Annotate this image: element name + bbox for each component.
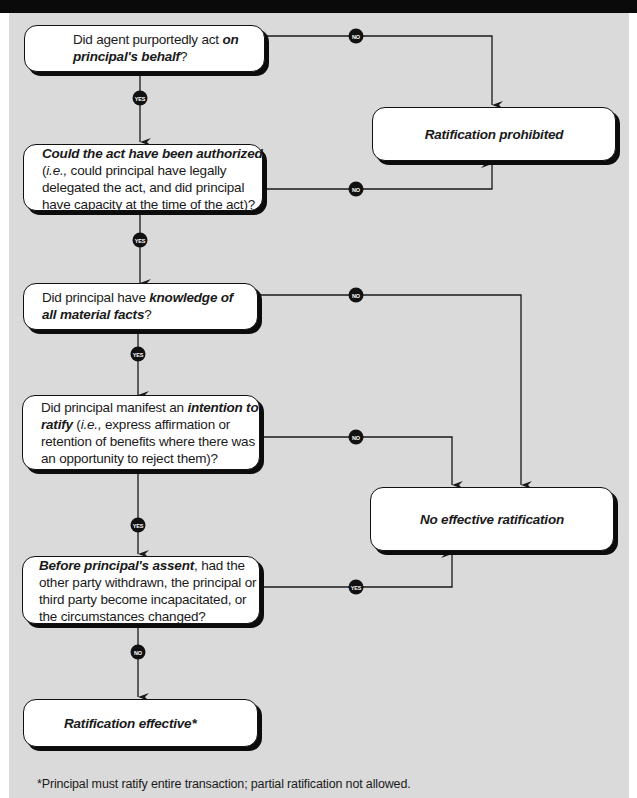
question-emphasis: Before principal's assent bbox=[39, 558, 194, 573]
no-badge: NO bbox=[349, 430, 364, 445]
footnote: *Principal must ratify entire transactio… bbox=[37, 777, 411, 791]
yes-badge: YES bbox=[131, 347, 146, 362]
yes-badge: YES bbox=[131, 518, 146, 533]
no-badge: NO bbox=[349, 29, 364, 44]
yes-badge: YES bbox=[133, 233, 148, 248]
question-text: i.e., bbox=[46, 163, 67, 178]
no-badge: NO bbox=[131, 645, 146, 660]
question-text: ( bbox=[73, 417, 81, 432]
question-text: ? bbox=[144, 307, 151, 322]
yes-badge: YES bbox=[133, 91, 148, 106]
question-text: Did agent purportedly act bbox=[73, 32, 222, 47]
question-box-behalf: Did agent purportedly act on principal's… bbox=[24, 25, 265, 72]
question-text: i.e., bbox=[81, 417, 102, 432]
question-text: Did principal have bbox=[42, 290, 149, 305]
yes-badge: YES bbox=[349, 580, 364, 595]
question-box-assent: Before principal's assent, had the other… bbox=[22, 556, 260, 624]
question-box-authorized: Could the act have been authorized (i.e.… bbox=[23, 144, 263, 211]
outcome-no-effective-ratification: No effective ratification bbox=[370, 487, 614, 551]
question-box-intention: Did principal manifest an intention to r… bbox=[22, 395, 260, 470]
outcome-ratification-effective: Ratification effective* bbox=[23, 699, 258, 747]
question-text: could principal have legally delegated t… bbox=[42, 163, 255, 212]
no-badge: NO bbox=[349, 182, 364, 197]
question-text: ? bbox=[180, 49, 187, 64]
question-text: Did principal manifest an bbox=[41, 400, 187, 415]
question-emphasis: Could the act have been authorized bbox=[42, 146, 263, 161]
no-badge: NO bbox=[349, 288, 364, 303]
question-box-knowledge: Did principal have knowledge of all mate… bbox=[23, 283, 258, 330]
outcome-ratification-prohibited: Ratification prohibited bbox=[372, 107, 616, 161]
